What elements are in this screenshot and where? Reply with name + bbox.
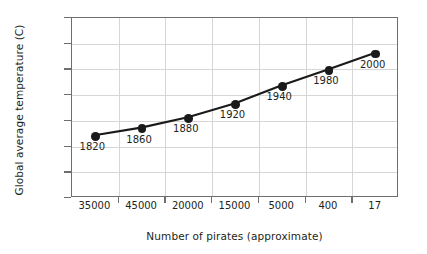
x-axis-tick-label: 400 xyxy=(318,200,337,211)
gridline-vertical xyxy=(165,18,166,196)
data-point-label: 1980 xyxy=(313,75,338,86)
data-point-marker xyxy=(184,114,193,123)
x-axis-tick-label: 15000 xyxy=(219,200,251,211)
gridline-vertical xyxy=(212,18,213,196)
data-point-marker xyxy=(138,124,147,133)
x-axis-tick-mark xyxy=(351,197,352,203)
x-axis-tick-mark xyxy=(164,197,165,203)
data-point-marker xyxy=(278,82,287,91)
data-point-label: 1860 xyxy=(126,134,151,145)
y-axis-tick-mark xyxy=(64,94,71,95)
gridline-horizontal xyxy=(72,172,397,173)
gridline-horizontal xyxy=(72,69,397,70)
data-point-marker xyxy=(91,132,100,141)
gridline-vertical xyxy=(306,18,307,196)
x-axis-tick-label: 17 xyxy=(368,200,381,211)
y-axis-tick-mark xyxy=(64,43,71,44)
y-axis-tick-mark xyxy=(64,17,71,18)
x-axis-title: Number of pirates (approximate) xyxy=(71,230,398,242)
data-point-label: 1920 xyxy=(220,109,245,120)
y-axis-tick-mark xyxy=(64,120,71,121)
x-axis-tick-label: 5000 xyxy=(268,200,293,211)
y-axis-title: Global average temperature (C) xyxy=(13,15,25,205)
data-point-label: 1880 xyxy=(173,123,198,134)
gridline-vertical xyxy=(259,18,260,196)
x-axis-tick-label: 35000 xyxy=(78,200,110,211)
data-point-label: 1940 xyxy=(266,91,291,102)
gridline-horizontal xyxy=(72,95,397,96)
gridline-vertical xyxy=(352,18,353,196)
data-point-marker xyxy=(325,66,334,75)
gridline-horizontal xyxy=(72,147,397,148)
chart-figure: Global average temperature (C) 1313.5141… xyxy=(0,0,427,254)
y-axis-tick-mark xyxy=(64,68,71,69)
x-axis-tick-mark xyxy=(211,197,212,203)
gridline-horizontal xyxy=(72,121,397,122)
x-axis-tick-mark xyxy=(305,197,306,203)
y-axis-tick-mark xyxy=(64,197,71,198)
plot-area: 1820186018801920194019802000 xyxy=(71,17,398,197)
data-point-label: 2000 xyxy=(360,59,385,70)
data-point-marker xyxy=(371,50,380,59)
x-axis-tick-mark xyxy=(258,197,259,203)
gridline-vertical xyxy=(119,18,120,196)
gridline-horizontal xyxy=(72,44,397,45)
data-point-marker xyxy=(231,100,240,109)
x-axis-tick-label: 20000 xyxy=(172,200,204,211)
data-point-label: 1820 xyxy=(80,141,105,152)
x-axis-tick-mark xyxy=(118,197,119,203)
x-axis-tick-label: 45000 xyxy=(125,200,157,211)
y-axis-tick-mark xyxy=(64,146,71,147)
y-axis-tick-mark xyxy=(64,171,71,172)
